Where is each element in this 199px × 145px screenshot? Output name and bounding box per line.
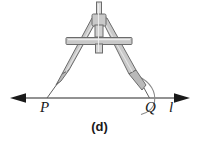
right-leg-pencil-tip	[144, 88, 150, 98]
right-leg-highlight	[104, 21, 133, 72]
figure-caption: (d)	[0, 120, 199, 133]
left-leg-highlight	[66, 21, 95, 72]
compass-right-leg	[101, 18, 150, 98]
base-line-group	[10, 93, 190, 103]
right-arrowhead	[174, 93, 190, 103]
line-label-l: l	[169, 100, 173, 115]
compass-left-leg	[47, 18, 98, 98]
left-leg-needle-point	[47, 82, 59, 98]
left-arrowhead	[10, 93, 26, 103]
point-label-Q: Q	[145, 100, 156, 115]
point-label-P: P	[40, 100, 49, 115]
right-leg-pencil-barrel	[129, 70, 146, 90]
compass-hinge-handle	[92, 2, 106, 53]
figure-container: P Q l (d)	[0, 0, 199, 145]
